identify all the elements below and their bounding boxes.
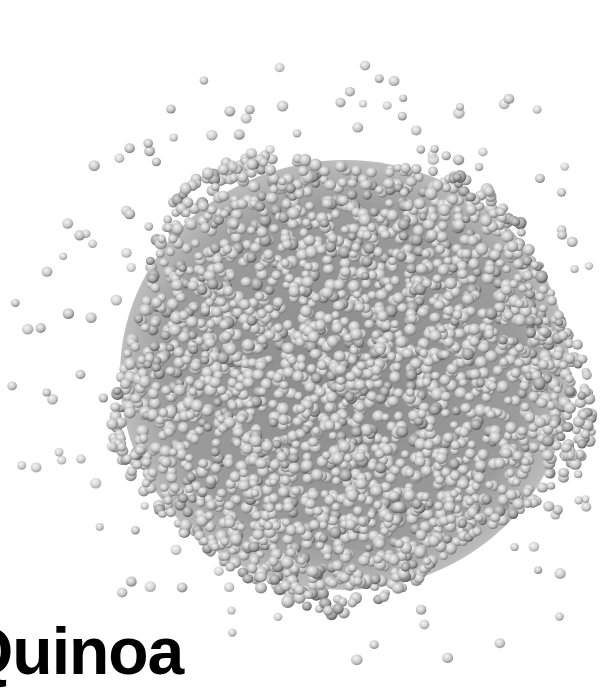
quinoa-photo: Quinoa <box>0 0 602 694</box>
caption-title: Quinoa <box>0 618 183 684</box>
quinoa-seed-pile <box>0 0 602 694</box>
